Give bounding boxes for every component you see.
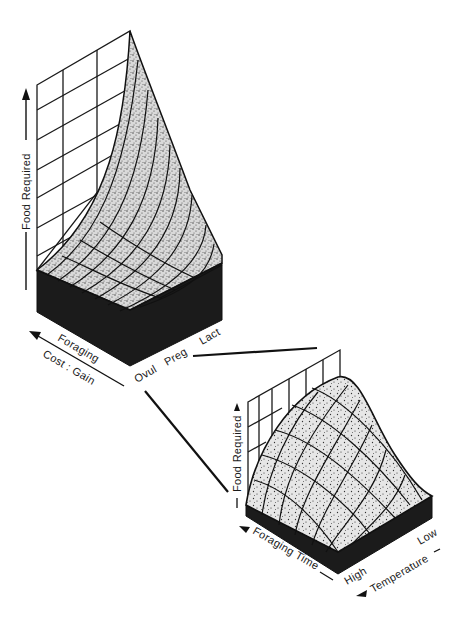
- upper-x-axis-arrowhead-icon: [29, 331, 41, 340]
- lower-z-axis-label: Food Required: [231, 415, 243, 492]
- lower-y-axis-label: Temperature: [368, 552, 430, 595]
- connector-line-horizontal: [193, 348, 317, 356]
- lower-x-axis-arrowhead-icon: [239, 526, 250, 533]
- lower-y-tick-low: Low: [415, 526, 439, 547]
- lower-x-axis-tail-line: [320, 572, 333, 580]
- lower-surface-chart: Food Required Foraging Time High Low Tem…: [231, 350, 440, 597]
- lower-y-axis-tail-line: [434, 549, 440, 552]
- upper-y-category-ovul: Ovul: [132, 362, 159, 384]
- lower-z-axis-arrowhead-icon: [234, 403, 240, 411]
- connector-line-diagonal: [145, 391, 228, 492]
- upper-z-axis-label: Food Required: [20, 153, 32, 230]
- upper-surface-chart: Food Required Foraging Cost : Gain Ovul …: [18, 31, 222, 387]
- lower-y-axis-arrowhead-icon: [356, 590, 367, 597]
- figure-canvas: Food Required Foraging Cost : Gain Ovul …: [0, 0, 460, 617]
- upper-z-axis-arrowhead-icon: [22, 88, 30, 100]
